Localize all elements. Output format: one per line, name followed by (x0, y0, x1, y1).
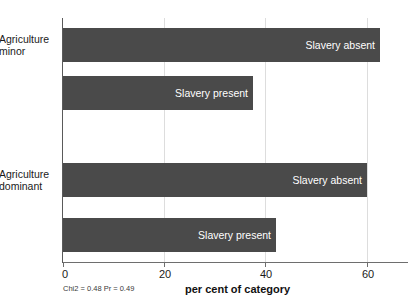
bar-minor-slavery-absent: Slavery absent (63, 28, 380, 62)
bar-value-label: Slavery absent (306, 40, 375, 51)
category-label-agriculture-minor: Agriculture minor (0, 33, 55, 57)
chart-annotation: Chi2 = 0.48 Pr = 0.49 (63, 284, 134, 293)
bar-value-label: Slavery present (198, 230, 271, 241)
x-tick-label-20: 20 (159, 268, 171, 280)
bar-value-label: Slavery present (175, 88, 248, 99)
x-axis-line (63, 262, 408, 263)
x-tick-label-60: 60 (362, 268, 374, 280)
x-tick-label-40: 40 (260, 268, 272, 280)
x-axis-title: per cent of category (185, 283, 290, 295)
bar-minor-slavery-present: Slavery present (63, 76, 253, 110)
category-label-agriculture-dominant: Agriculture dominant (0, 168, 55, 192)
bar-value-label: Slavery absent (293, 175, 362, 186)
x-tick-mark-20 (164, 263, 165, 267)
bar-chart: 0 20 40 60 Agriculture minor Slavery abs… (0, 0, 415, 304)
bar-dominant-slavery-present: Slavery present (63, 218, 276, 252)
x-tick-label-0: 0 (62, 268, 68, 280)
x-tick-mark-60 (367, 263, 368, 267)
x-tick-mark-0 (63, 263, 64, 267)
bar-dominant-slavery-absent: Slavery absent (63, 163, 367, 197)
x-tick-mark-40 (265, 263, 266, 267)
